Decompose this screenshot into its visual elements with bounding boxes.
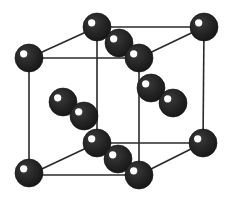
atom-front-bottom-right: [125, 161, 153, 189]
atom-highlight: [164, 95, 171, 102]
atom-highlight: [195, 19, 202, 26]
atom-highlight: [88, 19, 95, 26]
atom-highlight: [20, 50, 27, 57]
atom-highlight: [54, 94, 61, 101]
atom-left-pair-lower: [70, 102, 98, 130]
atom-front-top-right: [125, 44, 153, 72]
atom-highlight: [88, 135, 95, 142]
atom-back-top-right: [190, 13, 218, 41]
atom-highlight: [194, 135, 201, 142]
atom-highlight: [130, 50, 137, 57]
atom-front-top-left: [15, 44, 43, 72]
atom-sphere-icon: [125, 44, 153, 72]
atom-sphere-icon: [15, 159, 43, 187]
atom-highlight: [20, 165, 27, 172]
atom-back-bottom-right: [189, 129, 217, 157]
atom-sphere-icon: [15, 44, 43, 72]
atom-highlight: [130, 167, 137, 174]
atom-sphere-icon: [189, 129, 217, 157]
atom-sphere-icon: [70, 102, 98, 130]
atom-sphere-icon: [159, 89, 187, 117]
crystal-unit-cell-diagram: [0, 0, 230, 198]
atom-front-bottom-left: [15, 159, 43, 187]
cube-edge-back-right: [203, 27, 204, 143]
atom-highlight: [75, 108, 82, 115]
atoms: [15, 13, 218, 189]
atom-highlight: [110, 35, 117, 42]
atom-sphere-icon: [190, 13, 218, 41]
atom-highlight: [109, 151, 116, 158]
atom-sphere-icon: [125, 161, 153, 189]
atom-highlight: [142, 80, 149, 87]
atom-right-pair-lower: [159, 89, 187, 117]
